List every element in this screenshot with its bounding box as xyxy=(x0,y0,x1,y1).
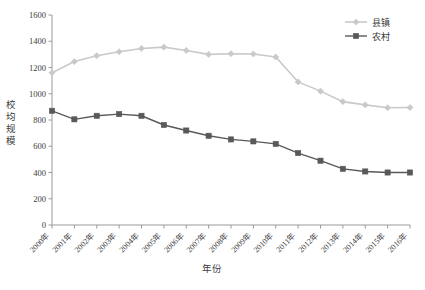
data-point-2 xyxy=(206,133,211,138)
line-chart: 020040060080010001200140016002000年2001年2… xyxy=(0,0,425,290)
data-point-1 xyxy=(183,47,189,53)
y-tick-label: 1600 xyxy=(29,10,46,20)
x-tick-label: 2007年 xyxy=(184,230,208,254)
data-point-1 xyxy=(138,45,144,51)
data-point-1 xyxy=(317,88,323,94)
x-tick-label: 2008年 xyxy=(206,230,230,254)
chart-figure: 020040060080010001200140016002000年2001年2… xyxy=(0,0,425,290)
y-tick-label: 800 xyxy=(33,115,46,125)
data-point-1 xyxy=(362,102,368,108)
axis-lines xyxy=(52,15,410,225)
legend-marker-1 xyxy=(353,19,359,25)
x-tick-label: 2009年 xyxy=(229,230,253,254)
data-point-1 xyxy=(250,51,256,57)
legend-marker-2 xyxy=(353,33,358,38)
y-tick-label: 1000 xyxy=(29,89,46,99)
data-point-2 xyxy=(273,141,278,146)
data-point-2 xyxy=(340,166,345,171)
data-point-2 xyxy=(49,108,54,113)
y-tick-label: 200 xyxy=(33,194,46,204)
data-point-1 xyxy=(71,58,77,64)
x-tick-label: 2015年 xyxy=(363,230,387,254)
data-point-1 xyxy=(206,51,212,57)
legend-label-2: 农村 xyxy=(372,31,390,42)
x-tick-label: 2003年 xyxy=(94,230,118,254)
data-point-2 xyxy=(228,137,233,142)
data-point-2 xyxy=(94,113,99,118)
x-tick-label: 2005年 xyxy=(139,230,163,254)
data-point-2 xyxy=(296,150,301,155)
legend-label-1: 县镇 xyxy=(372,17,390,28)
y-axis-title: 校均规模 xyxy=(6,99,16,146)
y-tick-label: 0 xyxy=(42,220,46,230)
x-tick-label: 2016年 xyxy=(385,230,409,254)
y-tick-label: 600 xyxy=(33,141,46,151)
data-point-1 xyxy=(385,105,391,111)
x-tick-label: 2001年 xyxy=(50,230,74,254)
x-axis-title: 年份 xyxy=(202,263,222,274)
y-tick-label: 1200 xyxy=(29,63,46,73)
data-point-2 xyxy=(407,170,412,175)
data-point-2 xyxy=(117,111,122,116)
data-point-2 xyxy=(318,158,323,163)
y-tick-label: 400 xyxy=(33,168,46,178)
data-point-2 xyxy=(184,128,189,133)
x-tick-label: 2012年 xyxy=(296,230,320,254)
data-point-2 xyxy=(251,139,256,144)
data-point-2 xyxy=(385,170,390,175)
data-point-2 xyxy=(161,122,166,127)
x-tick-label: 2006年 xyxy=(162,230,186,254)
x-tick-label: 2011年 xyxy=(274,230,298,254)
data-point-1 xyxy=(116,49,122,55)
x-tick-label: 2013年 xyxy=(318,230,342,254)
data-point-2 xyxy=(363,169,368,174)
y-tick-label: 1400 xyxy=(29,36,46,46)
x-tick-label: 2014年 xyxy=(341,230,365,254)
x-tick-label: 2004年 xyxy=(117,230,141,254)
data-point-2 xyxy=(72,117,77,122)
x-tick-label: 2000年 xyxy=(27,230,51,254)
data-point-1 xyxy=(228,51,234,57)
data-point-2 xyxy=(139,113,144,118)
data-point-1 xyxy=(94,53,100,59)
data-point-1 xyxy=(340,99,346,105)
x-tick-label: 2002年 xyxy=(72,230,96,254)
x-tick-label: 2010年 xyxy=(251,230,275,254)
data-point-1 xyxy=(161,44,167,50)
data-point-1 xyxy=(407,104,413,110)
data-point-1 xyxy=(49,70,55,76)
